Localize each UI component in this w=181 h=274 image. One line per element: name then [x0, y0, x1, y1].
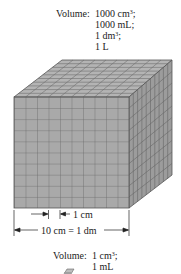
unit-text: 1 cm: [73, 209, 93, 220]
unit-length-label: 1 cm: [73, 210, 93, 220]
small-volume-value-1: 1 cm3;: [92, 251, 118, 261]
edge-length-label: 10 cm = 1 dm: [41, 226, 97, 236]
small-volume-label: Volume:: [53, 251, 87, 261]
value-text: 1 cm: [92, 250, 112, 261]
small-volume-value-2: 1 mL: [92, 262, 113, 272]
small-cube-icon: [64, 269, 74, 274]
edge-text: 10 cm = 1 dm: [41, 225, 97, 236]
cube-front-face: [14, 97, 129, 208]
volume-word: Volume:: [53, 250, 87, 261]
value-text: 1 mL: [92, 261, 113, 272]
value-suffix: ;: [115, 250, 118, 261]
